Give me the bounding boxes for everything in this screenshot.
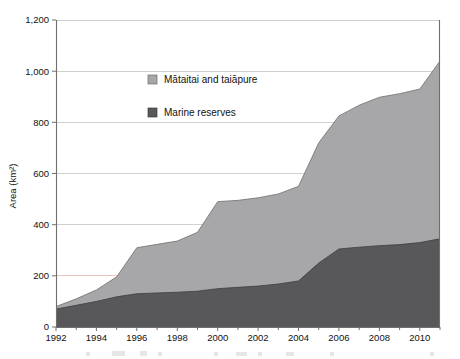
x-tick-label-2002: 2002 — [248, 332, 269, 343]
y-tick-label-600: 600 — [33, 168, 49, 179]
caption-remnant — [86, 351, 434, 356]
legend-swatch-mataitai-and-taiapure — [148, 75, 157, 84]
x-tick-label-2010: 2010 — [409, 332, 430, 343]
y-axis: 02004006008001,0001,200 — [25, 14, 56, 332]
y-tick-label-200: 200 — [33, 270, 49, 281]
x-tick-label-2006: 2006 — [328, 332, 349, 343]
x-tick-label-2004: 2004 — [288, 332, 309, 343]
legend-label-mataitai-and-taiapure: Mātaitai and taiāpure — [164, 74, 258, 85]
y-axis-title: Area (km²) — [7, 164, 18, 209]
legend-swatch-marine-reserves — [148, 108, 157, 117]
figure-container: 02004006008001,0001,200 1992199419961998… — [0, 0, 460, 359]
y-tick-label-1,000: 1,000 — [25, 66, 49, 77]
stacked-area-chart: 02004006008001,0001,200 1992199419961998… — [0, 0, 460, 359]
x-tick-label-1992: 1992 — [45, 332, 66, 343]
x-tick-label-2000: 2000 — [207, 332, 228, 343]
y-tick-label-1,200: 1,200 — [25, 14, 49, 25]
x-axis: 1992199419961998200020022004200620082010 — [45, 327, 440, 343]
x-tick-label-1994: 1994 — [86, 332, 107, 343]
x-tick-label-1998: 1998 — [167, 332, 188, 343]
x-tick-label-1996: 1996 — [126, 332, 147, 343]
legend-label-marine-reserves: Marine reserves — [164, 107, 236, 118]
y-tick-label-800: 800 — [33, 117, 49, 128]
x-tick-label-2008: 2008 — [369, 332, 390, 343]
y-tick-label-0: 0 — [44, 321, 49, 332]
y-tick-label-400: 400 — [33, 219, 49, 230]
